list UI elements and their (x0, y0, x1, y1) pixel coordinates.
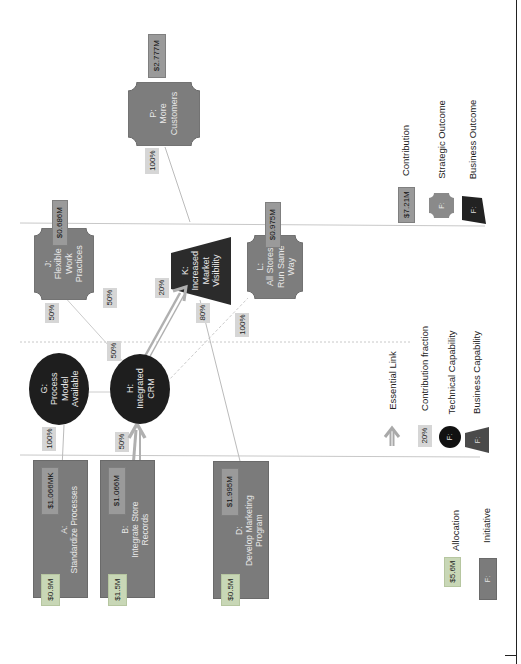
fraction-j-extra: 50% (103, 288, 117, 308)
legend-business-capability-label: Business Capability (470, 322, 484, 422)
initiative-d-label: D:Develop MarketingProgram (231, 472, 267, 590)
contribution-tag-j: $0.686M (52, 200, 68, 246)
fraction-g-h: 50% (107, 341, 121, 361)
fraction-h-j: 50% (45, 303, 59, 323)
fraction-h-l: 100% (235, 313, 249, 337)
fraction-k-p: 100% (145, 148, 159, 174)
fraction-a-g: 100% (42, 427, 56, 451)
legend-essential-link-icon (383, 425, 401, 447)
legend-initiative-sample: F: (479, 558, 497, 600)
legend-strategic-outcome-label: Strategic Outcome (435, 96, 449, 182)
initiative-b[interactable]: $1.5M $1.066M B:Integrate StoreRecords (100, 460, 155, 598)
tech-capability-h-label: H:IntegratedCRM (110, 354, 170, 424)
fraction-d-k: 80% (196, 303, 210, 323)
initiative-b-label: B:Integrate StoreRecords (118, 471, 154, 589)
legend-business-capability-icon: F: (465, 427, 489, 453)
legend-contribution-fraction-label: Contribution fraction (419, 318, 433, 418)
legend-contribution-label: Contribution (400, 120, 414, 180)
legend-technical-capability-icon: F: (439, 426, 461, 448)
legend-allocation-label: Allocation (450, 510, 464, 550)
initiative-a-label: A:Standardize Processes (54, 471, 86, 589)
svg-text:F:: F: (474, 437, 481, 443)
tech-capability-g-label: G:ProcessModelAvailable (29, 353, 89, 425)
strategic-outcome-p-label: P:MoreCustomers (128, 82, 200, 146)
legend-initiative-label: Initiative (480, 505, 494, 545)
legend-essential-link-label: Essential Link (386, 345, 400, 415)
contribution-tag-l: $0.975M (265, 202, 281, 248)
legend-contribution-sample: $7.21M (398, 187, 415, 223)
fraction-h-k: 20% (155, 278, 169, 298)
tech-capability-h[interactable]: H:IntegratedCRM (110, 354, 170, 424)
legend-strategic-outcome-icon: F: (429, 193, 454, 218)
svg-text:F:: F: (438, 202, 445, 208)
contribution-tag-p: $2.777M (148, 34, 166, 78)
legend-business-outcome-icon: F: (462, 196, 486, 224)
essential-arrow-hk (170, 283, 192, 305)
svg-text:F:: F: (470, 207, 477, 213)
initiative-d[interactable]: $0.5M $1.995M D:Develop MarketingProgram (213, 461, 269, 599)
initiative-a[interactable]: $0.9M $1.066MK A:Standardize Processes (33, 460, 88, 598)
legend-business-outcome-label: Business Outcome (467, 96, 481, 182)
legend-technical-capability-label: Technical Capability (445, 322, 459, 422)
tech-capability-g[interactable]: G:ProcessModelAvailable (29, 353, 89, 425)
legend-contribution-fraction-sample: 20% (418, 425, 432, 447)
legend-allocation-sample: $5.6M (444, 557, 461, 587)
